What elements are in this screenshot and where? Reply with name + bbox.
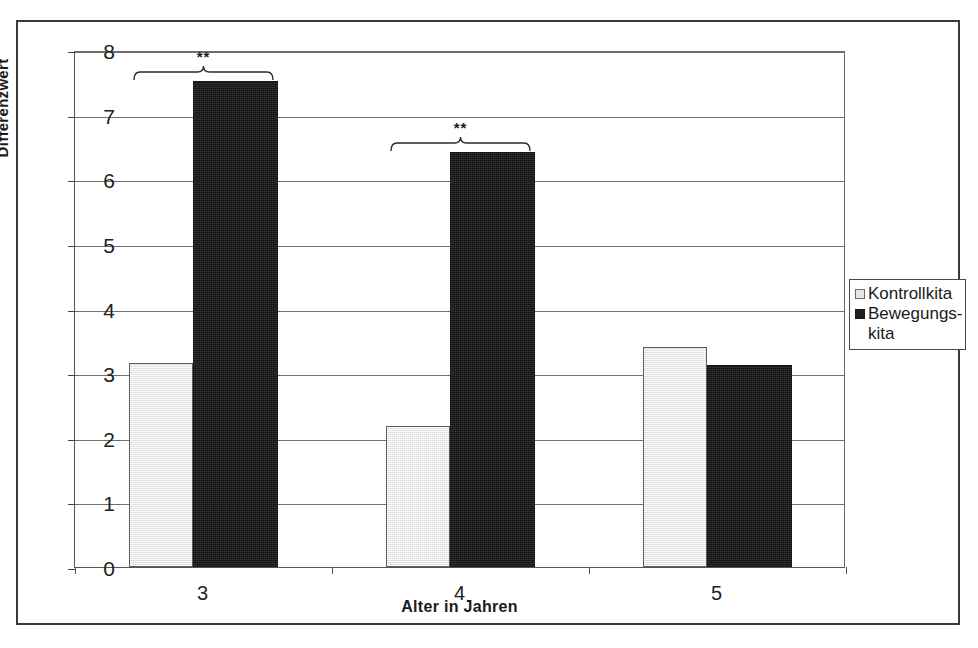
y-axis-tick-label: 3 bbox=[75, 364, 115, 385]
legend-item-bewegungskita: Bewegungs- bbox=[855, 304, 963, 324]
x-axis-tick-mark bbox=[846, 567, 847, 574]
y-axis-tick-mark bbox=[68, 375, 75, 376]
y-axis-tick-label: 8 bbox=[75, 41, 115, 62]
x-axis-tick-mark bbox=[332, 567, 333, 574]
x-axis-tick-mark bbox=[589, 567, 590, 574]
y-axis-tick-mark bbox=[68, 181, 75, 182]
significance-stars: ** bbox=[133, 50, 274, 63]
y-axis-tick-label: 7 bbox=[75, 106, 115, 127]
chart-legend: Kontrollkita Bewegungs- kita bbox=[849, 279, 966, 350]
y-axis-tick-mark bbox=[68, 246, 75, 247]
x-axis-title: Alter in Jahren bbox=[74, 598, 845, 616]
bar-bewegungskita-3 bbox=[193, 81, 278, 567]
y-axis-tick-mark bbox=[68, 117, 75, 118]
bar-bewegungskita-4 bbox=[450, 152, 535, 567]
bar-kontrollkita-3 bbox=[129, 363, 193, 567]
legend-label-bewegungskita: Bewegungs- bbox=[868, 304, 963, 324]
y-axis-tick-mark bbox=[68, 311, 75, 312]
y-axis-tick-label: 4 bbox=[75, 300, 115, 321]
y-axis-tick-mark bbox=[68, 569, 75, 570]
significance-stars: ** bbox=[390, 121, 531, 134]
y-axis-tick-label: 6 bbox=[75, 170, 115, 191]
figure-root: Differenzwert 012345678 **** 345 Alter i… bbox=[0, 0, 978, 648]
y-axis-tick-mark bbox=[68, 440, 75, 441]
y-axis-tick-label: 1 bbox=[75, 493, 115, 514]
y-axis-tick-label: 5 bbox=[75, 235, 115, 256]
bar-kontrollkita-5 bbox=[643, 347, 707, 567]
bracket-curve bbox=[390, 136, 531, 152]
x-axis-tick-mark bbox=[75, 567, 76, 574]
plot-area: 012345678 **** bbox=[74, 51, 845, 568]
bar-bewegungskita-5 bbox=[707, 365, 792, 567]
y-axis-tick-label: 0 bbox=[75, 558, 115, 579]
legend-swatch-bewegungskita bbox=[855, 309, 865, 319]
bracket-curve bbox=[133, 65, 274, 81]
y-axis-tick-label: 2 bbox=[75, 429, 115, 450]
legend-label-bewegungskita-line2: kita bbox=[868, 324, 963, 344]
legend-label-kontrollkita: Kontrollkita bbox=[868, 284, 952, 304]
bar-kontrollkita-4 bbox=[386, 426, 450, 567]
legend-swatch-kontrollkita bbox=[855, 289, 865, 299]
y-axis-tick-mark bbox=[68, 504, 75, 505]
y-axis-title: Differenzwert bbox=[0, 8, 11, 208]
y-axis-tick-mark bbox=[68, 52, 75, 53]
legend-item-kontrollkita: Kontrollkita bbox=[855, 284, 963, 304]
